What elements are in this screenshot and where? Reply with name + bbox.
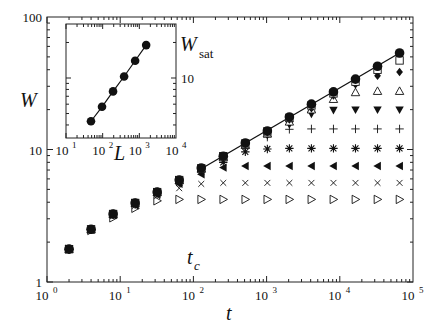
x-tick-label: 10 [402, 288, 415, 303]
x-tick-label: 10 [36, 288, 49, 303]
x-tick-exponent: 2 [199, 285, 204, 295]
x-tick-exponent: 1 [126, 285, 131, 295]
series-triangle-right-open [66, 195, 404, 253]
inset-x-tick-exponent: 2 [109, 140, 114, 150]
main-fit-line [199, 53, 399, 170]
inset-point [109, 87, 118, 96]
x-tick-label: 10 [255, 288, 268, 303]
inset-x-tick-exponent: 1 [72, 140, 77, 150]
inset-plot: 10110210310410 L W sat [56, 24, 214, 164]
x-tick-exponent: 3 [273, 285, 278, 295]
inset-x-tick-label: 10 [129, 143, 142, 158]
x-tick-label: 10 [328, 288, 341, 303]
log-log-chart: 110100100101102103104105 W t t c 1011021… [0, 0, 435, 329]
inset-y-label: W [180, 33, 199, 55]
tc-label: t [187, 246, 193, 268]
inset-x-label: L [113, 142, 125, 164]
inset-x-tick-exponent: 4 [182, 140, 187, 150]
inset-point [98, 103, 107, 112]
x-tick-exponent: 4 [346, 285, 351, 295]
inset-x-tick-label: 10 [56, 143, 69, 158]
y-axis-label: W [20, 89, 39, 111]
x-tick-exponent: 0 [53, 285, 58, 295]
y-tick-label: 10 [29, 143, 42, 158]
x-tick-label: 10 [109, 288, 122, 303]
inset-x-tick-label: 10 [166, 143, 179, 158]
tc-subscript: c [194, 258, 200, 273]
inset-point [120, 72, 129, 81]
y-tick-label: 100 [23, 10, 43, 25]
inset-y-tick-label: 10 [181, 71, 194, 86]
series-triangle-left-filled [65, 162, 403, 253]
tc-annotation: t c [187, 246, 200, 273]
x-tick-exponent: 5 [419, 285, 424, 295]
inset-point [87, 117, 96, 126]
inset-x-tick-label: 10 [92, 143, 105, 158]
inset-point [142, 41, 151, 50]
inset-x-tick-exponent: 3 [145, 140, 150, 150]
x-axis-label: t [226, 302, 232, 324]
x-tick-label: 10 [182, 288, 195, 303]
inset-point [131, 56, 140, 65]
inset-y-subscript: sat [199, 46, 214, 61]
